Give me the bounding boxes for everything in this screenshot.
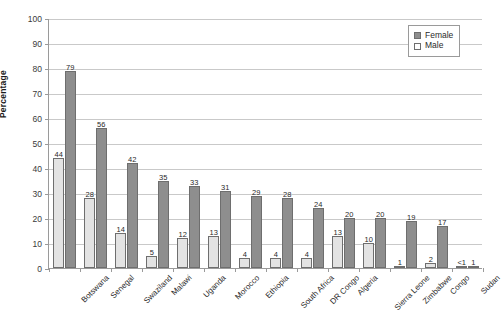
bar-value-label: 14 <box>117 226 125 234</box>
bar-value-label: 5 <box>150 249 154 257</box>
legend-item-male[interactable]: Male <box>414 41 453 50</box>
x-tick-mark <box>452 268 453 272</box>
bar-value-label: 4 <box>305 251 309 259</box>
y-tick-label: 30 <box>2 190 42 199</box>
bar-group: 284 <box>266 19 297 268</box>
bar-female-congo[interactable]: 17 <box>437 226 448 269</box>
bar-value-label: 33 <box>190 179 198 187</box>
y-tick-label: 70 <box>2 90 42 99</box>
bar-female-morocco[interactable]: 31 <box>220 191 231 269</box>
x-tick-label: Botswana <box>81 274 112 305</box>
x-tick-mark <box>421 268 422 272</box>
y-tick-label: 40 <box>2 165 42 174</box>
bar-group: 244 <box>297 19 328 268</box>
x-tick-mark <box>297 268 298 272</box>
bar-male-sierra-leone[interactable]: 10 <box>363 243 374 268</box>
bar-value-label: 31 <box>221 184 229 192</box>
x-tick-mark <box>173 268 174 272</box>
legend-item-female[interactable]: Female <box>414 31 453 40</box>
bar-value-label: 13 <box>210 229 218 237</box>
bar-female-swaziland[interactable]: 42 <box>127 163 138 268</box>
bar-group: 5628 <box>80 19 111 268</box>
legend-label-female: Female <box>425 31 453 40</box>
x-tick-mark <box>111 268 112 272</box>
bar-female-south-africa[interactable]: 28 <box>282 198 293 268</box>
y-tick-label: 60 <box>2 115 42 124</box>
x-tick-mark <box>483 268 484 272</box>
bar-female-sierra-leone[interactable]: 20 <box>375 218 386 268</box>
legend-swatch-female-icon <box>414 32 421 39</box>
bar-value-label: 42 <box>128 156 136 164</box>
bar-value-label: 2 <box>429 256 433 264</box>
x-tick-mark <box>390 268 391 272</box>
x-tick-mark <box>359 268 360 272</box>
bar-value-label: 1 <box>398 259 402 267</box>
bar-group: 3113 <box>204 19 235 268</box>
bar-male-algeria[interactable]: 13 <box>332 236 343 269</box>
bar-female-senegal[interactable]: 56 <box>96 128 107 268</box>
bar-male-malawi[interactable]: 5 <box>146 256 157 269</box>
bar-value-label: 35 <box>159 174 167 182</box>
bar-female-botswana[interactable]: 79 <box>65 71 76 269</box>
bar-male-ethiopia[interactable]: 4 <box>239 258 250 268</box>
bar-male-uganda[interactable]: 12 <box>177 238 188 268</box>
x-tick-mark <box>328 268 329 272</box>
x-tick-label: Malawi <box>171 274 194 297</box>
x-tick-label: Uganda <box>203 274 228 299</box>
bar-male-swaziland[interactable]: 14 <box>115 233 126 268</box>
y-tick-label: 80 <box>2 65 42 74</box>
bar-value-label: 12 <box>179 231 187 239</box>
bar-group: 3312 <box>173 19 204 268</box>
bar-group: 7944 <box>49 19 80 268</box>
bar-value-label: 20 <box>345 211 353 219</box>
bar-group: 4214 <box>111 19 142 268</box>
bar-female-sudan[interactable]: 1 <box>468 266 479 269</box>
bar-value-label: 19 <box>407 214 415 222</box>
bar-value-label: 28 <box>86 191 94 199</box>
y-tick-label: 90 <box>2 40 42 49</box>
bar-male-morocco[interactable]: 13 <box>208 236 219 269</box>
bar-group: 2013 <box>328 19 359 268</box>
bar-female-uganda[interactable]: 33 <box>189 186 200 269</box>
bar-female-ethiopia[interactable]: 29 <box>251 196 262 269</box>
x-tick-mark <box>49 268 50 272</box>
x-tick-label: Morocco <box>234 274 261 301</box>
bar-value-label: 24 <box>314 201 322 209</box>
x-tick-label: Senegal <box>110 274 136 300</box>
bar-male-congo[interactable]: 2 <box>425 263 436 268</box>
bar-group: 294 <box>235 19 266 268</box>
bar-female-algeria[interactable]: 20 <box>344 218 355 268</box>
bar-male-zimbabwe[interactable]: 1 <box>394 266 405 269</box>
bar-male-south-africa[interactable]: 4 <box>270 258 281 268</box>
bar-value-label: 1 <box>471 259 475 267</box>
legend-label-male: Male <box>425 41 443 50</box>
bar-value-label: 29 <box>252 189 260 197</box>
bar-value-label: 79 <box>66 64 74 72</box>
y-tick-label: 50 <box>2 140 42 149</box>
x-tick-label: Ethiopia <box>265 274 291 300</box>
bar-value-label: 13 <box>334 229 342 237</box>
bar-group: 2010 <box>359 19 390 268</box>
x-tick-mark <box>266 268 267 272</box>
x-tick-label: Algeria <box>357 274 380 297</box>
bar-value-label: 28 <box>283 191 291 199</box>
bar-value-label: 44 <box>55 151 63 159</box>
bar-male-sudan[interactable]: <1 <box>456 266 467 268</box>
bar-female-zimbabwe[interactable]: 19 <box>406 221 417 269</box>
bar-value-label: 10 <box>365 236 373 244</box>
bar-female-dr-congo[interactable]: 24 <box>313 208 324 268</box>
x-tick-label: Congo <box>449 274 471 296</box>
bar-value-label: 4 <box>274 251 278 259</box>
bar-group: 355 <box>142 19 173 268</box>
x-tick-mark <box>204 268 205 272</box>
y-tick-label: 0 <box>2 265 42 274</box>
bar-male-senegal[interactable]: 28 <box>84 198 95 268</box>
bar-female-malawi[interactable]: 35 <box>158 181 169 269</box>
bar-value-label: 4 <box>243 251 247 259</box>
x-tick-label: South Africa <box>300 274 336 310</box>
chart-legend: Female Male <box>408 25 460 57</box>
y-tick-label: 20 <box>2 215 42 224</box>
bar-male-botswana[interactable]: 44 <box>53 158 64 268</box>
bar-male-dr-congo[interactable]: 4 <box>301 258 312 268</box>
